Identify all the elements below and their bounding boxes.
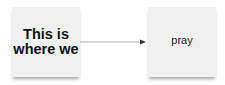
arrowhead-icon: [140, 40, 146, 45]
node-right[interactable]: pray: [148, 7, 216, 77]
node-right-label: pray: [171, 34, 192, 46]
